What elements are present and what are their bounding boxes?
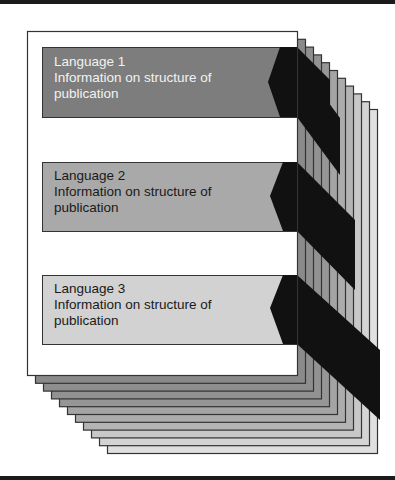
section-3-text: Language 3 Information on structure of p…: [54, 281, 212, 329]
section-2-text: Language 2 Information on structure of p…: [54, 168, 212, 216]
section-2-language: Language 2: [54, 168, 212, 184]
section-3-info: Information on structure of: [54, 297, 212, 313]
section-2-info-cont: publication: [54, 200, 212, 216]
section-1-info-cont: publication: [54, 86, 212, 102]
section-3-language: Language 3: [54, 281, 212, 297]
section-1-language: Language 1: [54, 54, 212, 70]
section-2-info: Information on structure of: [54, 184, 212, 200]
section-3-info-cont: publication: [54, 313, 212, 329]
section-1-info: Information on structure of: [54, 70, 212, 86]
section-1-text: Language 1 Information on structure of p…: [54, 54, 212, 102]
